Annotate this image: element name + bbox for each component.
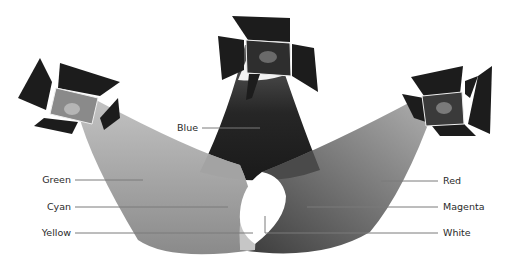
- label-blue: Blue: [177, 122, 198, 133]
- bulb: [64, 103, 80, 115]
- color-mixing-diagram: Blue Green Cyan Yellow Red Magenta White: [0, 0, 506, 267]
- label-cyan: Cyan: [47, 201, 71, 212]
- barn-door: [468, 66, 492, 134]
- barn-door: [34, 118, 78, 134]
- left-spotlight: [18, 58, 120, 134]
- barn-door: [411, 66, 463, 96]
- label-magenta: Magenta: [443, 201, 484, 212]
- barn-door: [18, 58, 52, 110]
- label-red: Red: [443, 175, 461, 186]
- label-white: White: [443, 227, 471, 238]
- barn-door: [232, 16, 290, 42]
- label-yellow: Yellow: [41, 227, 71, 238]
- bulb: [436, 102, 452, 114]
- barn-door: [292, 44, 318, 92]
- bulb: [259, 51, 277, 63]
- label-green: Green: [42, 174, 71, 185]
